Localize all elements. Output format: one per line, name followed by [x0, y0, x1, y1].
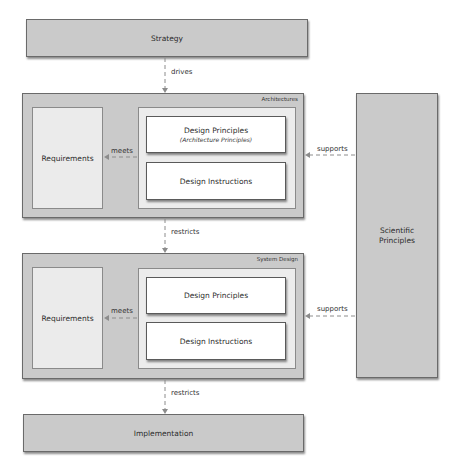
supports-label: supports: [317, 145, 348, 153]
restricts-label: restricts: [171, 389, 200, 397]
meets-label: meets: [111, 147, 133, 155]
restricts-label: restricts: [171, 228, 200, 236]
drives-label: drives: [171, 68, 192, 76]
connector-arrows: [0, 0, 457, 473]
supports-label: supports: [317, 305, 348, 313]
meets-label: meets: [111, 307, 133, 315]
